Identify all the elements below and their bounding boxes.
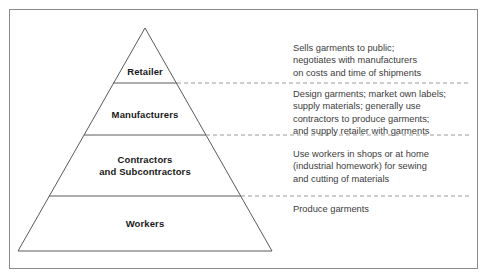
tier-label-contractors: Contractors and Subcontractors [99,154,191,178]
note-contractors: Use workers in shops or at home (industr… [293,148,478,185]
note-workers: Produce garments [293,203,478,215]
tier-label-retailer: Retailer [127,66,163,78]
tier-label-manufacturers: Manufacturers [112,109,179,121]
pyramid-diagram-screenshot: Retailer Manufacturers Contractors and S… [0,0,489,279]
tier-label-workers: Workers [126,218,165,230]
note-retailer: Sells garments to public; negotiates wit… [293,42,478,79]
note-manufacturers: Design garments; market own labels; supp… [293,88,478,138]
